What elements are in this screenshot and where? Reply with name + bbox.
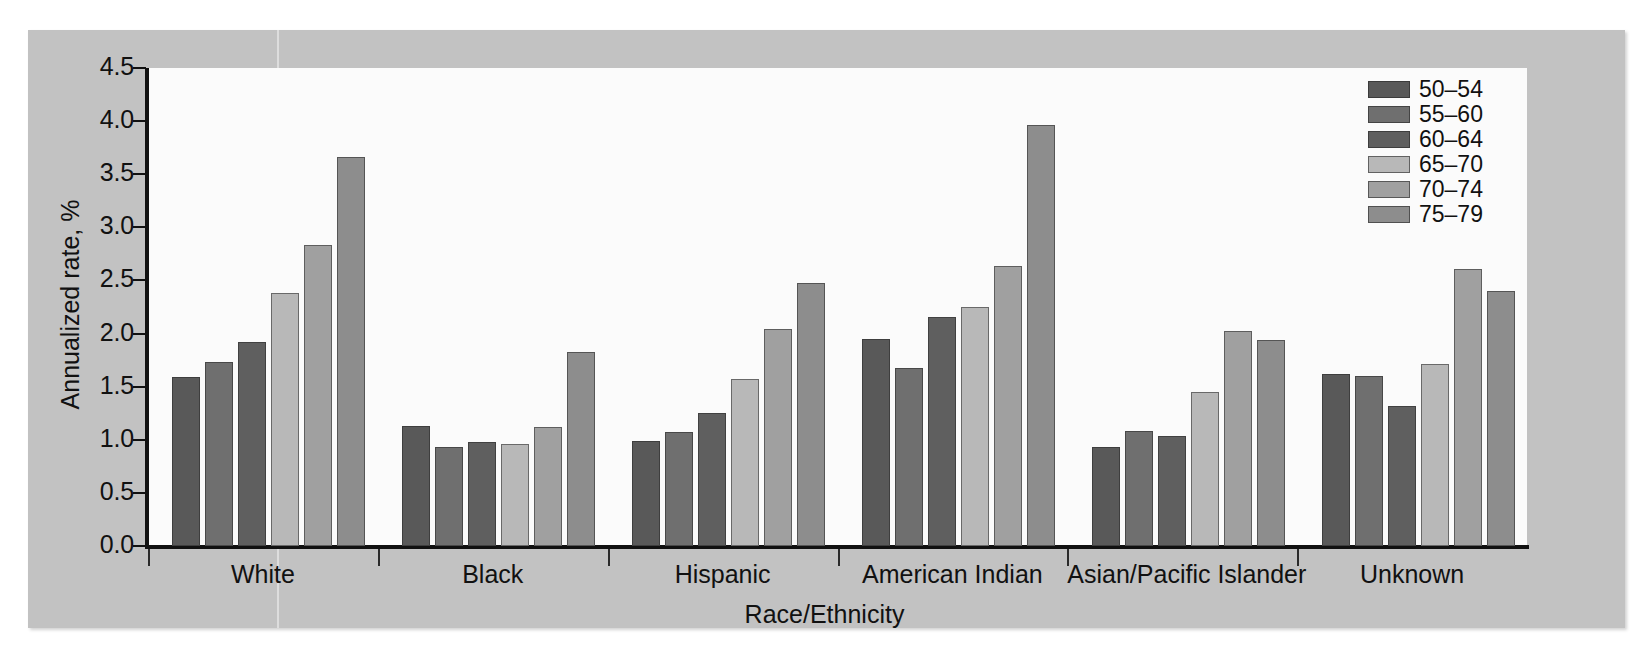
bar — [665, 432, 693, 546]
y-axis-tick-label: 0.5 — [100, 477, 134, 506]
legend-swatch — [1368, 131, 1410, 148]
legend-swatch — [1368, 206, 1410, 223]
y-axis-tick — [133, 492, 146, 494]
legend-item: 75–79 — [1368, 203, 1518, 226]
bar — [928, 317, 956, 546]
y-axis-tick-label: 0.0 — [100, 530, 134, 559]
x-axis-category-label: Black — [378, 560, 608, 589]
bar — [797, 283, 825, 546]
bar — [205, 362, 233, 546]
y-axis-tick-label: 2.5 — [100, 264, 134, 293]
y-axis-tick — [133, 545, 146, 547]
bar — [172, 377, 200, 546]
legend-label: 55–60 — [1419, 103, 1483, 126]
legend-item: 70–74 — [1368, 178, 1518, 201]
legend-label: 75–79 — [1419, 203, 1483, 226]
y-axis-tick — [133, 226, 146, 228]
bar — [501, 444, 529, 546]
y-axis-tick — [133, 120, 146, 122]
y-axis-tick-label: 3.5 — [100, 158, 134, 187]
legend-swatch — [1368, 181, 1410, 198]
legend-item: 50–54 — [1368, 78, 1518, 101]
bar — [1487, 291, 1515, 546]
bar — [731, 379, 759, 546]
y-axis-tick-label: 4.0 — [100, 105, 134, 134]
bar — [271, 293, 299, 546]
x-axis-category-label: Hispanic — [608, 560, 838, 589]
x-axis-category-label: Asian/Pacific Islander — [1067, 560, 1297, 589]
bar — [337, 157, 365, 546]
bar — [994, 266, 1022, 546]
bar — [1322, 374, 1350, 546]
y-axis-tick-label: 4.5 — [100, 52, 134, 81]
legend-label: 65–70 — [1419, 153, 1483, 176]
y-axis-tick — [133, 279, 146, 281]
bar — [895, 368, 923, 546]
y-axis-tick — [133, 439, 146, 441]
y-axis-tick — [133, 173, 146, 175]
bar — [1257, 340, 1285, 546]
y-axis-tick-label: 1.0 — [100, 424, 134, 453]
y-axis-tick — [133, 67, 146, 69]
legend-item: 65–70 — [1368, 153, 1518, 176]
bar — [961, 307, 989, 546]
bar — [698, 413, 726, 546]
legend-swatch — [1368, 106, 1410, 123]
bar — [1224, 331, 1252, 546]
y-axis-tick — [133, 386, 146, 388]
x-axis-category-label: American Indian — [838, 560, 1068, 589]
bar — [862, 339, 890, 546]
legend-item: 60–64 — [1368, 128, 1518, 151]
bar — [1092, 447, 1120, 546]
y-axis-tick-label: 1.5 — [100, 371, 134, 400]
bar — [1388, 406, 1416, 546]
bar — [304, 245, 332, 546]
bar — [238, 342, 266, 546]
legend-swatch — [1368, 156, 1410, 173]
bar — [1125, 431, 1153, 546]
legend: 50–5455–6060–6465–7070–7475–79 — [1368, 78, 1518, 228]
y-axis-tick — [133, 333, 146, 335]
legend-label: 50–54 — [1419, 78, 1483, 101]
bar — [1191, 392, 1219, 546]
bars-layer — [148, 68, 1527, 546]
legend-label: 70–74 — [1419, 178, 1483, 201]
bar — [468, 442, 496, 546]
bar — [534, 427, 562, 546]
bar — [567, 352, 595, 546]
bar — [632, 441, 660, 546]
x-axis-category-label: White — [148, 560, 378, 589]
bar — [764, 329, 792, 546]
figure-root: 0.00.51.01.52.02.53.03.54.04.5 WhiteBlac… — [0, 0, 1649, 654]
y-axis-tick-label: 2.0 — [100, 318, 134, 347]
legend-label: 60–64 — [1419, 128, 1483, 151]
bar — [435, 447, 463, 546]
bar — [1421, 364, 1449, 546]
bar — [1355, 376, 1383, 546]
y-axis-title: Annualized rate, % — [56, 175, 85, 435]
bar — [402, 426, 430, 546]
y-axis-tick-label: 3.0 — [100, 211, 134, 240]
bar — [1027, 125, 1055, 546]
bar — [1454, 269, 1482, 546]
x-axis-category-label: Unknown — [1297, 560, 1527, 589]
bar — [1158, 436, 1186, 546]
legend-item: 55–60 — [1368, 103, 1518, 126]
legend-swatch — [1368, 81, 1410, 98]
x-axis-title: Race/Ethnicity — [0, 600, 1649, 629]
